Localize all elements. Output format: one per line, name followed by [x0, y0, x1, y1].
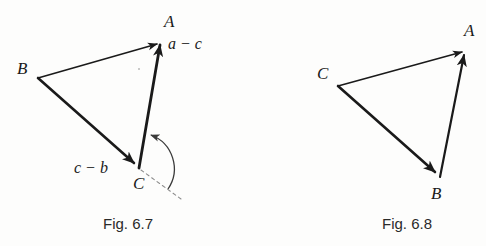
vector-B-to-C: [38, 78, 134, 163]
vector-C-to-B-fig68: [338, 86, 435, 172]
vector-B-to-A: [38, 44, 157, 78]
fig-6-7-group: [38, 44, 181, 199]
vertex-label-A-fig67: A: [164, 13, 174, 30]
vertex-label-B-fig67: B: [17, 60, 27, 77]
vector-label-c-minus-b: c − b: [74, 160, 108, 176]
vector-label-a-minus-c: a − c: [168, 36, 202, 52]
vertex-label-C-fig67: C: [133, 175, 144, 192]
vector-C-to-A-fig68: [338, 52, 462, 86]
fig-6-8-group: [338, 52, 464, 177]
vertex-label-B-fig68: B: [431, 185, 441, 202]
figure-pair-container: A B C a − c c − b Fig. 6.7 A C B Fig. 6.…: [0, 0, 486, 246]
scan-speck: [138, 68, 140, 70]
vertex-label-A-fig68: A: [464, 22, 474, 39]
figure-caption-6-8: Fig. 6.8: [382, 216, 432, 231]
dashed-reference-ray: [141, 170, 181, 199]
angle-arc: [151, 135, 174, 189]
vector-C-to-A: [139, 45, 160, 168]
vector-diagram-canvas: [0, 0, 486, 246]
figure-caption-6-7: Fig. 6.7: [103, 216, 153, 231]
vector-B-to-A-fig68: [440, 55, 464, 177]
vertex-label-C-fig68: C: [317, 65, 328, 82]
